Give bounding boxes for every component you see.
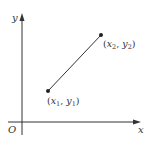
y-axis-arrow-icon [20, 13, 25, 21]
line-segment [48, 35, 101, 91]
point-1-label: (x1, y1) [47, 95, 80, 108]
point-1-dot [46, 89, 50, 93]
point-2-dot [99, 33, 103, 37]
origin-label: O [8, 124, 16, 135]
point-2-label: (x2, y2) [103, 38, 136, 51]
y-axis-label: y [11, 12, 18, 23]
x-axis-label: x [138, 124, 144, 135]
coordinate-diagram: y x O (x1, y1) (x2, y2) [0, 0, 152, 147]
point-2-close-paren: ) [132, 38, 136, 49]
point-1-close-paren: ) [76, 95, 80, 106]
